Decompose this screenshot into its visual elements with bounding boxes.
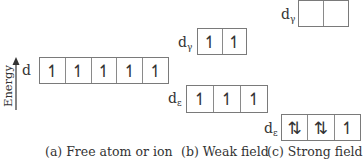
orbital-cell: ⇅ — [308, 115, 334, 140]
orbital-cell: ↿ — [335, 115, 360, 140]
orbital-box-d-gamma-strong — [298, 0, 349, 27]
orbital-cell: ↿ — [117, 58, 143, 83]
orbital-cell — [299, 1, 324, 26]
orbital-box-d-epsilon-strong: ⇅ ⇅ ↿ — [281, 114, 361, 141]
caption-weak-field: (b) Weak field — [181, 144, 269, 159]
level-label-d-gamma-weak: dγ — [178, 35, 192, 52]
orbital-cell: ↿ — [92, 58, 118, 83]
orbital-cell: ⇅ — [282, 115, 308, 140]
level-label-d-gamma-strong: dγ — [281, 7, 295, 24]
orbital-box-d: ↿ ↿ ↿ ↿ ↿ — [39, 57, 169, 84]
orbital-cell: ↿ — [223, 29, 247, 54]
orbital-box-d-epsilon-weak: ↿ ↿ ↿ — [186, 85, 268, 113]
energy-axis-label: Energy — [1, 65, 15, 107]
caption-strong-field: (c) Strong field — [267, 144, 363, 159]
orbital-cell: ↿ — [40, 58, 66, 83]
level-label-d-epsilon-strong: dε — [264, 121, 278, 138]
orbital-cell: ↿ — [198, 29, 223, 54]
orbital-cell: ↿ — [187, 86, 214, 112]
caption-free-atom: (a) Free atom or ion — [45, 144, 172, 159]
orbital-cell: ↿ — [143, 58, 168, 83]
orbital-cell: ↿ — [241, 86, 267, 112]
orbital-cell: ↿ — [66, 58, 92, 83]
orbital-cell — [324, 1, 348, 26]
level-label-d: d — [22, 63, 31, 77]
orbital-cell: ↿ — [214, 86, 241, 112]
orbital-box-d-gamma-weak: ↿ ↿ — [197, 28, 247, 55]
level-label-d-epsilon-weak: dε — [168, 91, 182, 108]
